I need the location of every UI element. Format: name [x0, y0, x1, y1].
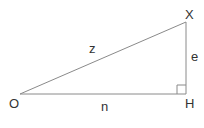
side-label-e: e: [191, 49, 198, 64]
side-label-z: z: [89, 41, 96, 56]
right-triangle-diagram: X O H z n e: [0, 0, 204, 128]
vertex-label-h: H: [185, 96, 194, 111]
side-label-n: n: [101, 99, 108, 114]
side-hypotenuse: [20, 22, 186, 94]
vertex-label-x: X: [185, 7, 194, 22]
right-angle-marker: [177, 85, 186, 94]
vertex-label-o: O: [9, 96, 19, 111]
triangle: [20, 22, 186, 94]
